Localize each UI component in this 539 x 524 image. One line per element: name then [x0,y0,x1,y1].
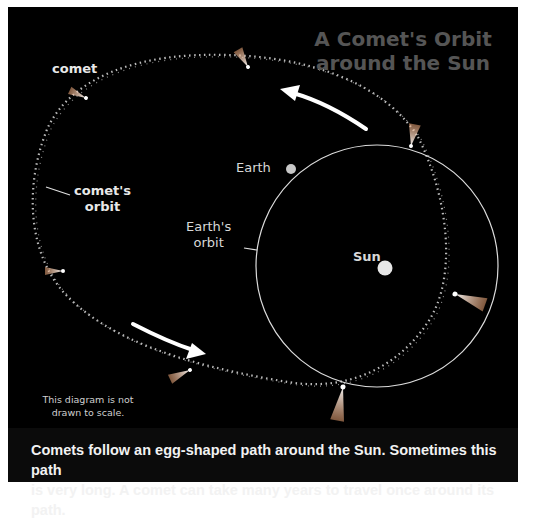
comet-icon [405,123,421,149]
sun-label: Sun [353,249,381,264]
comets-orbit-pointer [46,187,70,195]
earths-orbit-label: Earth's orbit [186,219,231,251]
caption-line-1: Comets follow an egg-shaped path around … [31,442,497,478]
comets-orbit-line-1: comet's [74,183,131,199]
note-line-2: drawn to scale. [28,406,148,419]
comet-icon [45,267,65,275]
earth [286,164,296,174]
title-line-2: around the Sun [288,51,518,75]
earth-label: Earth [236,160,271,175]
title-line-1: A Comet's Orbit [288,27,518,51]
comet-orbit [33,55,449,386]
comet-icon [234,47,254,71]
caption-box: Comets follow an egg-shaped path around … [8,428,518,482]
comet-icon [330,383,350,421]
caption-text: Comets follow an egg-shaped path around … [31,440,511,520]
diagram-title: A Comet's Orbit around the Sun [288,27,518,75]
note-line-1: This diagram is not [28,393,148,406]
comet-icon [450,287,487,312]
earths-orbit-pointer [244,248,257,250]
direction-arrow-top [280,85,366,129]
scale-note: This diagram is not drawn to scale. [28,393,148,419]
earth-orbit [256,145,498,387]
comet-label: comet [52,61,97,76]
earths-orbit-line-2: orbit [186,235,231,251]
caption-line-2: is very long. A comet can take many year… [31,482,494,518]
comets-orbit-label: comet's orbit [74,183,131,215]
diagram-panel: A Comet's Orbit around the Sun comet com… [8,7,518,482]
comet-icon [168,365,194,384]
comets-orbit-line-2: orbit [74,199,131,215]
earths-orbit-line-1: Earth's [186,219,231,235]
